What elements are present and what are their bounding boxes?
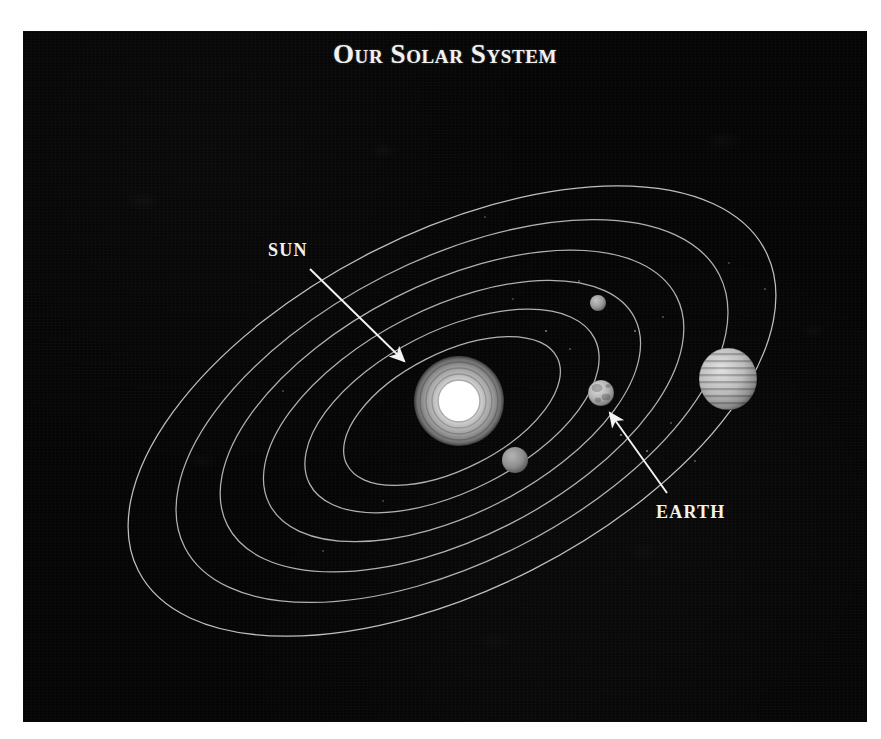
planet-inner-1	[502, 447, 528, 473]
body-sun	[414, 356, 504, 446]
sun-callout-arrow	[310, 269, 404, 361]
planet-earth	[588, 380, 614, 406]
page-canvas: Our Solar System	[0, 0, 881, 739]
planet-inner-2	[590, 295, 606, 311]
earth-callout-arrow	[610, 413, 667, 493]
earth-label: EARTH	[656, 502, 725, 522]
sun-label: SUN	[268, 240, 308, 260]
planet-gas-giant	[695, 346, 761, 414]
solar-system-illustration: SUN EARTH	[23, 31, 867, 722]
solar-system-plate: Our Solar System	[23, 31, 867, 722]
